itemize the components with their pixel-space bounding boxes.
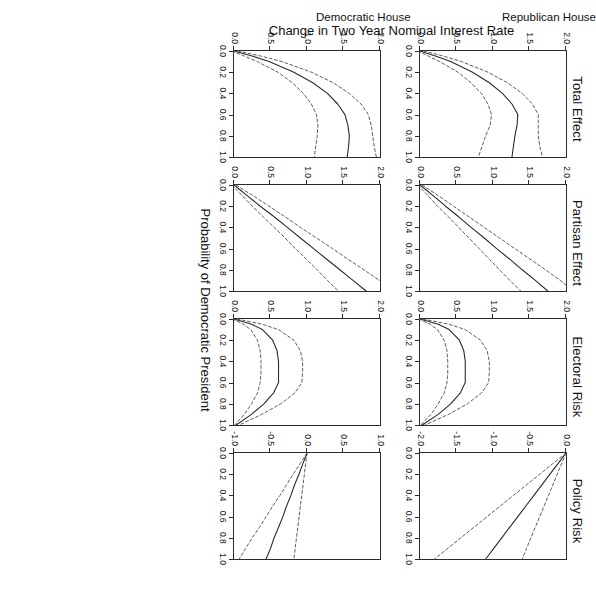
- curves: [419, 452, 567, 560]
- panel-title-electoral-risk: Electoral Risk: [570, 318, 585, 436]
- y-tick-mark: [270, 448, 271, 452]
- y-axis-label: Change in Two Year Nominal Interest Rate: [262, 23, 522, 38]
- x-tick-mark: [415, 51, 419, 52]
- y-tick-mark: [379, 180, 380, 184]
- y-tick-mark: [529, 46, 530, 50]
- x-tick-mark: [229, 206, 233, 207]
- series-upper_ci: [422, 185, 567, 291]
- y-tick-mark: [492, 46, 493, 50]
- curves: [233, 318, 381, 426]
- y-tick-label: 0.0: [303, 412, 313, 446]
- y-tick-mark: [492, 180, 493, 184]
- y-tick-label: 0.0: [562, 412, 572, 446]
- y-tick-mark: [565, 46, 566, 50]
- x-tick-mark: [229, 474, 233, 475]
- y-tick-label: 2.0: [562, 10, 572, 44]
- y-tick-mark: [270, 314, 271, 318]
- y-tick-label: 2.0: [376, 278, 386, 312]
- x-tick-mark: [415, 404, 419, 405]
- y-tick-mark: [233, 314, 234, 318]
- panel-republican-house-total-effect: [419, 50, 567, 158]
- x-tick-mark: [229, 559, 233, 560]
- y-tick-label: 0.0: [416, 278, 426, 312]
- y-tick-label: 1.5: [526, 144, 536, 178]
- x-tick-mark: [415, 136, 419, 137]
- y-tick-label: 0.0: [230, 10, 240, 44]
- y-tick-mark: [343, 314, 344, 318]
- y-tick-mark: [233, 180, 234, 184]
- series-lower_ci: [239, 453, 307, 559]
- x-tick-mark: [229, 93, 233, 94]
- panel-democratic-house-electoral-risk: [233, 318, 381, 426]
- y-tick-label: 1.0: [303, 10, 313, 44]
- series-lower_ci: [419, 319, 448, 425]
- multi-panel-figure: Total Effect Partisan Effect Electoral R…: [192, 0, 589, 589]
- panel-democratic-house-partisan-effect: [233, 184, 381, 292]
- y-tick-label: 0.5: [267, 10, 277, 44]
- y-tick-label: 0.5: [267, 144, 277, 178]
- y-tick-label: 0.0: [230, 144, 240, 178]
- y-tick-label: -2.0: [416, 412, 426, 446]
- x-tick-mark: [229, 538, 233, 539]
- y-tick-mark: [270, 46, 271, 50]
- y-tick-label: -1.5: [453, 412, 463, 446]
- series-upper_ci: [424, 51, 543, 157]
- x-tick-mark: [415, 319, 419, 320]
- y-tick-label: 2.0: [562, 144, 572, 178]
- series-lower_ci: [233, 319, 261, 425]
- y-tick-mark: [419, 180, 420, 184]
- y-tick-mark: [270, 180, 271, 184]
- y-tick-label: 0.0: [416, 144, 426, 178]
- y-tick-mark: [565, 448, 566, 452]
- series-lower_ci: [419, 51, 492, 157]
- x-tick-label: 1.0: [404, 546, 414, 572]
- y-tick-mark: [456, 448, 457, 452]
- y-tick-mark: [456, 180, 457, 184]
- y-tick-label: -0.5: [267, 412, 277, 446]
- series-estimate: [486, 453, 566, 559]
- x-tick-mark: [415, 270, 419, 271]
- x-tick-mark: [229, 361, 233, 362]
- series-upper_ci: [522, 453, 566, 559]
- y-tick-mark: [456, 314, 457, 318]
- x-tick-mark: [415, 383, 419, 384]
- x-tick-mark: [229, 270, 233, 271]
- y-tick-label: 2.0: [376, 144, 386, 178]
- x-tick-mark: [415, 559, 419, 560]
- panel-republican-house-policy-risk: [419, 452, 567, 560]
- y-tick-label: 1.5: [340, 144, 350, 178]
- y-tick-mark: [379, 46, 380, 50]
- x-tick-mark: [229, 51, 233, 52]
- x-tick-mark: [415, 115, 419, 116]
- series-upper_ci: [236, 185, 381, 291]
- x-tick-mark: [229, 136, 233, 137]
- y-tick-mark: [306, 180, 307, 184]
- x-tick-mark: [415, 206, 419, 207]
- y-tick-mark: [565, 180, 566, 184]
- series-lower_ci: [435, 453, 566, 559]
- curves: [233, 184, 381, 292]
- x-tick-mark: [229, 185, 233, 186]
- x-tick-mark: [229, 495, 233, 496]
- x-tick-mark: [415, 361, 419, 362]
- panel-title-policy-risk: Policy Risk: [570, 452, 585, 570]
- y-tick-label: 0.5: [453, 10, 463, 44]
- y-tick-label: 1.5: [340, 278, 350, 312]
- y-tick-mark: [233, 448, 234, 452]
- y-tick-label: 2.0: [562, 278, 572, 312]
- x-tick-label: 1.0: [218, 278, 228, 304]
- y-tick-label: 0.0: [416, 10, 426, 44]
- x-tick-mark: [229, 72, 233, 73]
- curves: [419, 50, 567, 158]
- y-tick-label: 1.5: [340, 10, 350, 44]
- series-estimate: [420, 51, 518, 157]
- panel-democratic-house-policy-risk: [233, 452, 381, 560]
- x-tick-mark: [229, 517, 233, 518]
- y-tick-mark: [379, 448, 380, 452]
- x-tick-mark: [415, 495, 419, 496]
- x-tick-mark: [415, 227, 419, 228]
- series-upper_ci: [237, 319, 303, 425]
- curves: [419, 318, 567, 426]
- y-tick-label: 0.0: [230, 278, 240, 312]
- x-tick-mark: [229, 340, 233, 341]
